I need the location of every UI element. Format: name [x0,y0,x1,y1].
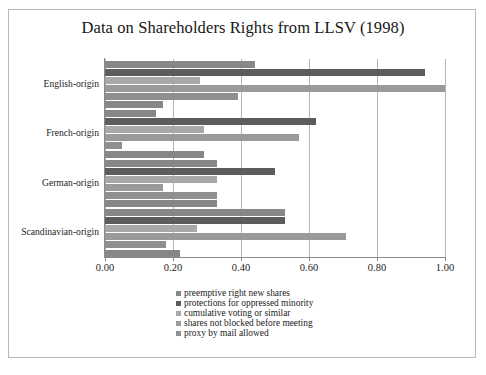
bar [105,151,204,158]
bar [105,160,217,167]
bar [105,233,346,240]
legend-item[interactable]: protections for oppressed minority [176,298,406,308]
x-axis-tick-label: 0.80 [352,262,402,273]
legend-item[interactable]: cumulative voting or similar [176,308,406,318]
x-axis-tick-label: 0.60 [284,262,334,273]
legend-swatch-icon [176,321,181,326]
x-axis-tick-mark [105,258,106,261]
legend-item-label: protections for oppressed minority [184,298,313,308]
legend-item-label: cumulative voting or similar [184,308,291,318]
legend-item-label: preemptive right new shares [184,288,290,298]
legend-swatch-icon [176,291,181,296]
bar [105,126,204,133]
gridline [445,59,446,257]
x-axis-tick-label: 0.00 [80,262,130,273]
x-axis-line [104,257,446,258]
legend-item[interactable]: shares not blocked before meeting [176,318,406,328]
chart-figure: Data on Shareholders Rights from LLSV (1… [0,0,486,375]
legend-item-label: shares not blocked before meeting [184,318,313,328]
legend-swatch-icon [176,311,181,316]
bar [105,184,163,191]
bar [105,209,285,216]
bar [105,241,166,248]
bar [105,192,217,199]
bar [105,77,200,84]
bar [105,85,445,92]
legend-swatch-icon [176,331,181,336]
x-axis-tick-mark [309,258,310,261]
legend-item[interactable]: proxy by mail allowed [176,328,406,338]
chart-legend: preemptive right new sharesprotections f… [176,288,406,338]
bar [105,93,238,100]
bar [105,200,217,207]
bar [105,101,163,108]
chart-title: Data on Shareholders Rights from LLSV (1… [0,18,486,38]
y-axis-category-label: English-origin [0,78,99,89]
y-axis-category-label: French-origin [0,127,99,138]
bar [105,134,299,141]
bar [105,225,197,232]
x-axis-tick-mark [241,258,242,261]
bar [105,168,275,175]
bar [105,110,156,117]
bar [105,250,180,257]
x-axis-tick-mark [377,258,378,261]
bar [105,69,425,76]
x-axis-tick-mark [173,258,174,261]
y-axis-category-label: German-origin [0,177,99,188]
plot-area [105,59,445,257]
legend-swatch-icon [176,301,181,306]
x-axis-tick-label: 0.40 [216,262,266,273]
bar [105,61,255,68]
legend-item[interactable]: preemptive right new shares [176,288,406,298]
y-axis-category-label: Scandinavian-origin [0,226,99,237]
x-axis-tick-label: 1.00 [420,262,470,273]
bar [105,142,122,149]
legend-item-label: proxy by mail allowed [184,328,269,338]
x-axis-tick-label: 0.20 [148,262,198,273]
bar [105,118,316,125]
bar [105,176,217,183]
bar [105,217,285,224]
x-axis-tick-mark [445,258,446,261]
